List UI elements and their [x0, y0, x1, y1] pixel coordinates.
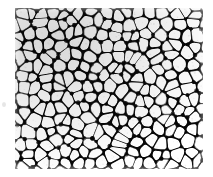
cell-junction-node — [34, 27, 36, 29]
cell-junction-node — [200, 50, 202, 52]
cell-junction-node — [89, 102, 92, 105]
cell-junction-node — [142, 157, 144, 159]
cell-junction-node — [20, 48, 23, 51]
cell-junction-node — [137, 147, 141, 151]
cell-junction-node — [67, 156, 70, 159]
cell-junction-node — [83, 137, 85, 139]
cell-junction-node — [104, 132, 106, 134]
cell-junction-node — [185, 132, 187, 134]
cell-junction-node — [47, 152, 49, 154]
cell-junction-node — [34, 9, 39, 14]
cell-junction-node — [111, 137, 115, 141]
cell-junction-node — [176, 101, 180, 105]
cell-junction-node — [199, 18, 203, 22]
cell-junction-node — [124, 82, 126, 84]
cell-junction-node — [89, 62, 94, 67]
cell-junction-node — [165, 136, 168, 139]
cell-junction-node — [96, 26, 101, 31]
cell-junction-node — [127, 143, 131, 147]
cell-junction-node — [149, 84, 151, 86]
cell-junction-node — [104, 103, 107, 106]
cell-junction-node — [150, 126, 153, 129]
cell-junction-node — [131, 74, 134, 77]
cell-junction-node — [128, 81, 130, 83]
cell-junction-node — [182, 114, 184, 116]
cell-junction-node — [166, 94, 169, 97]
cell-junction-node — [55, 18, 58, 21]
cell-junction-node — [52, 47, 55, 50]
cell-junction-node — [24, 138, 26, 140]
cell-junction-node — [197, 102, 199, 104]
cell-junction-node — [186, 94, 189, 97]
cell-junction-node — [159, 156, 164, 161]
cell-junction-node — [68, 25, 71, 28]
cell-junction-node — [67, 143, 70, 146]
cell-junction-node — [190, 27, 193, 30]
cell-junction-node — [192, 146, 194, 148]
cell-junction-node — [44, 127, 46, 129]
cell-junction-node — [176, 97, 180, 101]
cell-junction-node — [64, 38, 69, 43]
cell-junction-node — [75, 138, 77, 140]
cell-junction-node — [47, 16, 50, 19]
cell-junction-node — [144, 106, 147, 109]
cell-junction-node — [185, 59, 188, 62]
cell-junction-node — [163, 125, 165, 127]
cell-junction-node — [45, 25, 48, 28]
cell-junction-node — [136, 29, 138, 31]
cell-junction-node — [41, 49, 46, 54]
cell-junction-node — [173, 48, 176, 51]
cell-junction-node — [161, 41, 164, 44]
cell-junction-node — [133, 104, 137, 108]
cell-junction-node — [131, 29, 135, 33]
cell-junction-node — [159, 105, 161, 107]
micrograph-image-panel — [15, 8, 203, 169]
cell-junction-node — [186, 26, 189, 29]
cell-junction-node — [17, 66, 20, 69]
cell-junction-node — [76, 67, 80, 71]
cell-junction-node — [94, 37, 96, 39]
cell-junction-node — [35, 37, 37, 39]
cell-junction-node — [17, 80, 20, 83]
cell-junction-node — [29, 19, 33, 23]
cell-junction-node — [143, 138, 145, 140]
cell-junction-node — [97, 93, 99, 95]
cell-junction-node — [132, 17, 135, 20]
cell-junction-node — [111, 49, 115, 53]
cell-junction-node — [64, 18, 66, 20]
cell-junction-node — [84, 157, 88, 161]
cell-junction-node — [154, 83, 156, 85]
cell-junction-node — [97, 54, 100, 57]
cell-junction-node — [61, 135, 65, 139]
cell-junction-node — [17, 69, 19, 71]
cell-junction-node — [82, 35, 85, 38]
cell-junction-node — [166, 148, 169, 151]
cell-network-texture — [15, 8, 203, 169]
cell-junction-node — [158, 136, 160, 138]
cell-junction-node — [48, 32, 51, 35]
cell-junction-node — [112, 72, 115, 75]
cell-junction-node — [34, 127, 38, 131]
cell-junction-node — [46, 101, 49, 104]
cell-junction-node — [127, 115, 131, 119]
cell-junction-node — [83, 91, 86, 94]
cell-junction-node — [70, 91, 74, 95]
cell-junction-node — [35, 161, 38, 164]
cell-junction-node — [123, 101, 128, 106]
cell-junction-node — [110, 92, 113, 95]
cell-junction-node — [106, 162, 111, 167]
cell-junction-node — [102, 66, 106, 70]
cell-junction-node — [28, 94, 31, 97]
cell-junction-node — [50, 89, 55, 94]
cell-junction-node — [32, 60, 35, 63]
cell-junction-node — [70, 127, 73, 130]
micrograph-figure — [0, 0, 213, 177]
cell-junction-node — [51, 79, 55, 83]
cell-junction-node — [154, 161, 157, 164]
cell-junction-node — [84, 14, 86, 16]
cell-junction-node — [168, 14, 171, 17]
cell-junction-node — [103, 149, 105, 151]
cell-junction-node — [90, 80, 93, 83]
cell-junction-node — [96, 72, 100, 76]
cell-junction-node — [188, 70, 190, 72]
